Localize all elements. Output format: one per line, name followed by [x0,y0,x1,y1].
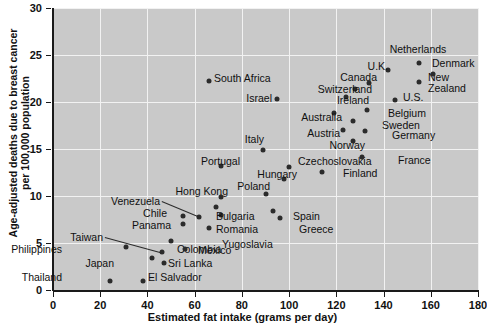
y-axis-tick-label: 15 [0,143,42,155]
data-point-label: Australia [301,112,342,123]
data-point-label: Austria [307,128,340,139]
data-point[interactable] [261,147,266,152]
data-point[interactable] [140,278,145,283]
data-point-label: El Salvador [148,272,202,283]
data-point[interactable] [365,107,370,112]
x-axis-tick [478,292,479,297]
data-point[interactable] [263,192,268,197]
y-axis-tick-label: 10 [0,190,42,202]
y-axis-tick-label: 20 [0,96,42,108]
x-axis-tick-label: 180 [469,299,487,311]
x-axis-tick [289,292,290,297]
data-point-label: Ireland [337,95,369,106]
x-axis-tick-label: 80 [236,299,248,311]
data-point-label: Yugoslavia [222,239,273,250]
data-point-label: Panama [132,220,171,231]
x-axis-tick-label: 60 [189,299,201,311]
gridline-vertical [478,8,479,290]
data-point[interactable] [287,164,292,169]
x-axis-tick-label: 40 [141,299,153,311]
x-axis-tick-label: 120 [327,299,345,311]
data-point-label: Thailand [22,272,62,283]
data-point-label: Israel [246,93,272,104]
x-axis-tick [431,292,432,297]
data-point-label: Japan [85,258,114,269]
data-point[interactable] [393,98,398,103]
data-point-label: Greece [299,224,333,235]
data-point-label: Philippines [11,244,62,255]
data-point-label: U.S. [403,92,423,103]
data-point[interactable] [416,80,421,85]
y-axis-tick-label: 30 [0,2,42,14]
data-point[interactable] [277,215,282,220]
data-point[interactable] [206,225,211,230]
data-point-label: Sweden [382,120,420,131]
data-point[interactable] [416,60,421,65]
data-point-label: Portugal [201,156,240,167]
x-axis-tick-label: 160 [422,299,440,311]
data-point-label: Canada [340,72,377,83]
data-point[interactable] [206,79,211,84]
data-point[interactable] [107,278,112,283]
data-point[interactable] [341,128,346,133]
data-point[interactable] [124,244,129,249]
data-point-label: Sri Lanka [168,258,212,269]
y-axis-tick [46,55,51,56]
x-axis-tick [336,292,337,297]
data-point-label: Venezuela [111,196,160,207]
data-point-label: Germany [392,130,435,141]
data-point[interactable] [150,256,155,261]
data-point[interactable] [362,129,367,134]
x-axis-tick [384,292,385,297]
data-point-label: South Africa [214,73,271,84]
data-point-label: Finland [343,168,377,179]
x-axis-tick [147,292,148,297]
y-axis-tick [46,149,51,150]
data-point[interactable] [169,239,174,244]
gridline-horizontal [53,8,478,9]
data-point[interactable] [431,71,436,76]
data-point[interactable] [183,246,188,251]
x-axis-tick [53,292,54,297]
y-axis-tick [46,196,51,197]
x-axis-tick-label: 20 [94,299,106,311]
data-point[interactable] [320,169,325,174]
data-point-label: Switzerland [318,84,372,95]
x-axis-title: Estimated fat intake (grams per day) [0,311,485,323]
data-point-label: France [398,155,431,166]
data-point-label: U.K. [368,61,388,72]
data-point[interactable] [275,97,280,102]
data-point[interactable] [350,118,355,123]
data-point[interactable] [360,155,365,160]
data-point[interactable] [161,260,166,265]
y-axis-tick-label: 0 [0,284,42,296]
x-axis-tick [195,292,196,297]
data-point-label: Norway [329,140,365,151]
x-axis-tick-label: 0 [50,299,56,311]
data-point-label: Denmark [432,58,475,69]
gridline-horizontal [53,55,478,56]
data-point-label: Romania [216,224,258,235]
data-point-label: Belgium [388,108,426,119]
data-point-label: Poland [237,181,270,192]
data-point-label: Spain [293,211,320,222]
y-axis-tick [46,8,51,9]
y-axis-tick [46,290,51,291]
y-axis-tick-label: 25 [0,49,42,61]
x-axis-tick [100,292,101,297]
data-point-label: Hungary [257,169,297,180]
data-point-label: Italy [245,134,264,145]
data-point-label: Bulgaria [216,211,255,222]
data-point-label: Hong Kong [175,186,228,197]
data-point[interactable] [180,222,185,227]
x-axis-tick-label: 100 [280,299,298,311]
data-point-label: Netherlands [390,44,447,55]
x-axis-tick-label: 140 [374,299,392,311]
y-axis-title-line2: per 100,000 population [19,76,31,190]
data-point[interactable] [270,209,275,214]
data-point-label: Chile [143,208,167,219]
data-point[interactable] [180,213,185,218]
x-axis-tick [242,292,243,297]
x-axis-line [53,290,479,292]
